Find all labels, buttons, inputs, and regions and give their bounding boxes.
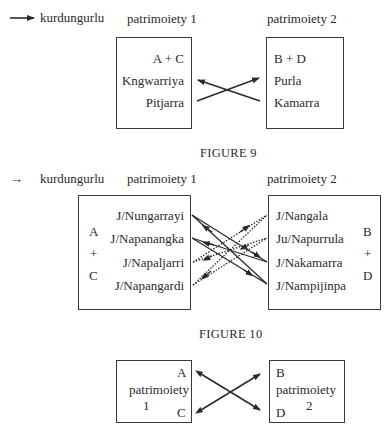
legend-label: kurdungurlu — [40, 11, 104, 24]
fig9-header-patrimoiety-2: patrimoiety 2 — [267, 172, 337, 185]
fig10-left-top: A — [177, 366, 186, 379]
fig9-right-item: J/Nampijinpa — [276, 279, 346, 292]
fig9-left-section: A — [89, 225, 98, 238]
fig9-left-item: J/Nungarrayi — [116, 209, 184, 222]
fig9-legend-arrow-label: → — [10, 172, 23, 185]
fig9-header-patrimoiety-1: patrimoiety 1 — [127, 172, 197, 185]
fig10-right-bottom: D — [276, 406, 285, 419]
caption-figure-10: FIGURE 10 — [199, 328, 262, 341]
fig10-left-box: A patrimoiety 1 C — [116, 360, 192, 423]
fig8-right-box: B + D Purla Kamarra — [266, 37, 344, 129]
fig9-left-item: J/Napaljarri — [123, 256, 184, 269]
fig9-right-box: J/Nangala Ju/Napurrula J/Nakamarra J/Nam… — [268, 195, 381, 310]
fig8-left-item: Kngwarriya — [122, 74, 184, 87]
fig10-right-label: patrimoiety — [276, 383, 336, 396]
fig9-right-section: + — [364, 247, 371, 260]
fig9-left-box: A + C J/Nungarrayi J/Napanangka J/Napalj… — [78, 195, 191, 310]
fig8-header-patrimoiety-2: patrimoiety 2 — [267, 12, 337, 25]
fig9-left-item: J/Napangardi — [115, 279, 184, 292]
legend-arrow-icon: → — [10, 171, 23, 186]
fig8-right-item: Purla — [274, 74, 301, 87]
caption-figure-9: FIGURE 9 — [200, 147, 257, 160]
fig10-left-label: patrimoiety — [129, 383, 189, 396]
fig9-left-item: J/Napanangka — [110, 232, 184, 245]
fig8-right-section: B + D — [274, 52, 306, 65]
fig9-right-item: Ju/Napurrula — [276, 232, 344, 245]
figure9-solid-lines — [192, 215, 267, 284]
fig8-header-patrimoiety-1: patrimoiety 1 — [127, 12, 197, 25]
fig9-right-item: J/Nakamarra — [276, 256, 342, 269]
fig10-left-number: 1 — [143, 399, 150, 412]
fig9-right-section: B — [363, 225, 372, 238]
fig9-left-section: + — [90, 247, 97, 260]
fig8-left-box: A + C Kngwarriya Pitjarra — [116, 37, 192, 129]
figure10-arrows — [201, 374, 260, 410]
fig10-left-bottom: C — [177, 406, 186, 419]
fig9-left-section: C — [89, 269, 98, 282]
fig10-right-number: 2 — [306, 399, 313, 412]
fig9-legend-label: kurdungurlu — [40, 172, 104, 185]
fig9-right-section: D — [363, 269, 372, 282]
figure8-arrows — [197, 78, 260, 101]
fig10-right-box: B patrimoiety 2 D — [269, 360, 345, 423]
fig9-right-item: J/Nangala — [276, 209, 328, 222]
fig10-right-top: B — [276, 366, 285, 379]
fig8-left-section: A + C — [153, 52, 184, 65]
fig8-left-item: Pitjarra — [146, 96, 184, 109]
fig8-right-item: Kamarra — [274, 96, 319, 109]
